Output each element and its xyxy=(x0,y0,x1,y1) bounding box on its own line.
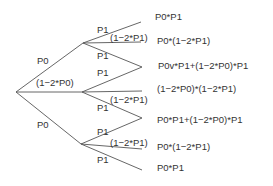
edge-root-lower xyxy=(16,92,81,144)
outcome-3: P0v*P1+(1−2*P0)*P1 xyxy=(158,61,248,71)
branch-label-middle-mid: (1−2*P1) xyxy=(110,95,148,105)
branch-label-lower-mid: (1−2*P1) xyxy=(110,138,148,148)
branch-label-upper-bot: P1 xyxy=(97,51,109,61)
branch-label-1-2p0: (1−2*P0) xyxy=(36,78,74,88)
edge-middle-mid xyxy=(82,91,142,92)
edge-upper-bot xyxy=(83,43,142,67)
edge-middle-top xyxy=(82,67,142,92)
branch-label-middle-top: P1 xyxy=(97,68,109,78)
outcome-6: P0*(1−2*P1) xyxy=(157,142,210,152)
branch-label-lower-bot: P1 xyxy=(97,155,109,165)
outcome-4: (1−2*P0)*(1−2*P1) xyxy=(157,84,236,94)
branch-label-upper-top: P1 xyxy=(97,25,109,35)
branch-label-lower-top: P1 xyxy=(97,127,109,137)
branch-label-middle-bot: P1 xyxy=(97,103,109,113)
outcome-5: P0*P1+(1−2*P0)*P1 xyxy=(157,115,243,125)
branch-label-upper-mid: (1−2*P1) xyxy=(110,33,148,43)
branch-label-p0-upper: P0 xyxy=(37,56,49,66)
outcome-2: P0*(1−2*P1) xyxy=(157,36,210,46)
outcome-7: P0*P1 xyxy=(157,163,184,173)
outcome-1: P0*P1 xyxy=(155,12,182,22)
branch-label-p0-lower: P0 xyxy=(37,120,49,130)
